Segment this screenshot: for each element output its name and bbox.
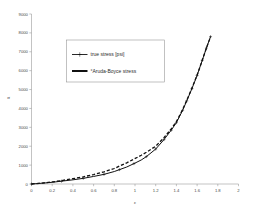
x-tick-label: 1.4 <box>173 188 179 193</box>
x-tick-label: 0.2 <box>49 188 55 193</box>
y-tick-label: 4000 <box>19 106 29 111</box>
x-tick-label: 1.2 <box>153 188 159 193</box>
stress-strain-chart: 00.20.40.60.811.21.41.61.82 010002000300… <box>0 0 253 212</box>
chart-canvas: 00.20.40.60.811.21.41.61.82 010002000300… <box>0 0 253 212</box>
x-tick-label: 1 <box>134 188 137 193</box>
y-axis-tick-labels: 0100020003000400050006000700080009000 <box>19 12 29 187</box>
x-tick-label: 0.6 <box>91 188 97 193</box>
x-tick-label: 1.8 <box>215 188 221 193</box>
y-tick-label: 5000 <box>19 87 29 92</box>
y-tick-label: 1000 <box>19 163 29 168</box>
y-tick-label: 6000 <box>19 68 29 73</box>
x-axis-tick-labels: 00.20.40.60.811.21.41.61.82 <box>30 188 240 193</box>
y-tick-label: 0 <box>26 182 29 187</box>
x-tick-label: 2 <box>237 188 240 193</box>
x-axis: 00.20.40.60.811.21.41.61.82 <box>30 184 240 193</box>
x-tick-label: 1.6 <box>194 188 200 193</box>
chart-legend: true stress [psi] °Aruda-Boyce stress <box>67 40 165 82</box>
y-axis-ticks <box>29 14 31 184</box>
y-axis-title: σ <box>7 95 10 100</box>
x-tick-label: 0.8 <box>111 188 117 193</box>
y-tick-label: 2000 <box>19 144 29 149</box>
y-tick-label: 9000 <box>19 12 29 17</box>
y-tick-label: 3000 <box>19 125 29 130</box>
legend-label-arruda-boyce: °Aruda-Boyce stress <box>91 68 137 74</box>
y-tick-label: 7000 <box>19 49 29 54</box>
y-tick-label: 8000 <box>19 30 29 35</box>
x-tick-label: 0 <box>30 188 33 193</box>
x-axis-title: ε <box>134 200 136 205</box>
legend-box <box>67 40 165 82</box>
y-axis: 0100020003000400050006000700080009000 <box>19 12 32 187</box>
x-tick-label: 0.4 <box>70 188 76 193</box>
x-axis-ticks <box>32 184 239 186</box>
legend-label-true-stress: true stress [psi] <box>91 51 126 57</box>
